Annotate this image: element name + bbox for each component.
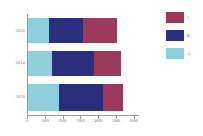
legend-swatch-c	[166, 12, 184, 23]
bar-segment-c[interactable]	[103, 84, 123, 111]
bar-row[interactable]	[28, 51, 121, 76]
y-axis-labels: 2010 2014 2018	[0, 14, 25, 116]
bar-segment-a[interactable]	[28, 18, 49, 43]
legend: C B A	[166, 12, 203, 66]
legend-item-b[interactable]: B	[166, 30, 203, 41]
bar-segment-b[interactable]	[59, 84, 103, 111]
bar-row[interactable]	[28, 84, 123, 111]
y-axis-tick-label: 2010	[2, 28, 25, 34]
y-axis-tick-label: 2018	[2, 94, 25, 100]
bar-row[interactable]	[28, 18, 117, 43]
legend-swatch-b	[166, 30, 184, 41]
legend-label-a: A	[187, 51, 190, 57]
x-axis-tick-label: 6000	[130, 118, 138, 123]
x-axis-tick-label: 1000	[41, 118, 49, 123]
x-axis-tick-label: 2000	[59, 118, 67, 123]
stacked-bar-chart: 2010 2014 2018 0 1000 2000 3000 4000 500…	[0, 0, 203, 136]
bar-segment-b[interactable]	[49, 18, 83, 43]
legend-swatch-a	[166, 48, 184, 59]
x-axis-tick-label: 3000	[76, 118, 84, 123]
legend-item-a[interactable]: A	[166, 48, 203, 59]
bar-segment-c[interactable]	[94, 51, 121, 76]
y-axis-tick-label: 2014	[2, 60, 25, 66]
bar-segment-a[interactable]	[28, 84, 59, 111]
x-axis-tick-label: 4000	[94, 118, 102, 123]
x-axis-tick-label: 0	[26, 118, 28, 123]
x-axis-line	[27, 115, 139, 116]
plot-area: 0 1000 2000 3000 4000 5000 6000	[27, 14, 134, 116]
legend-label-c: C	[187, 15, 190, 21]
legend-item-c[interactable]: C	[166, 12, 203, 23]
bar-segment-b[interactable]	[52, 51, 94, 76]
legend-label-b: B	[187, 33, 190, 39]
bar-segment-a[interactable]	[28, 51, 52, 76]
x-axis-tick-label: 5000	[112, 118, 120, 123]
bar-segment-c[interactable]	[83, 18, 117, 43]
